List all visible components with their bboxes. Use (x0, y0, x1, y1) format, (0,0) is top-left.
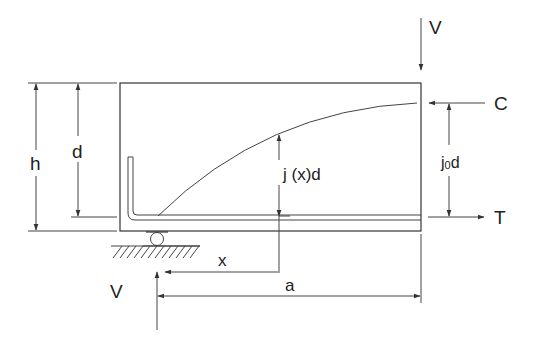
compression-force: C (429, 93, 508, 114)
compression-arch-curve (158, 103, 417, 216)
tension-force: T (428, 207, 506, 228)
shear-force-bottom: V (110, 272, 157, 330)
lever-arm-0-label: j0d (440, 154, 460, 171)
beam-diagram: h d j (x)d V C T j0d x (0, 0, 536, 354)
height-label: h (30, 153, 41, 174)
shear-top-label: V (429, 17, 442, 38)
shear-force-top: V (421, 17, 442, 70)
shear-span-dimension: a (158, 276, 420, 296)
tension-label: T (494, 207, 506, 228)
depth-label: d (72, 141, 83, 162)
lever-arm-0-dimension: j0d (440, 104, 460, 216)
distance-x-label: x (218, 251, 227, 270)
compression-label: C (494, 93, 508, 114)
reinforcing-bar (128, 157, 421, 220)
depth-dimension: d (71, 84, 117, 217)
lever-arm-x-label: j (x)d (282, 165, 321, 184)
ground-hatching-icon (113, 246, 199, 258)
shear-span-label: a (285, 276, 295, 295)
lever-arm-x-dimension: j (x)d (279, 135, 321, 273)
distance-x-dimension: x (165, 251, 278, 272)
shear-bottom-label: V (110, 281, 123, 302)
roller-support (111, 232, 200, 258)
